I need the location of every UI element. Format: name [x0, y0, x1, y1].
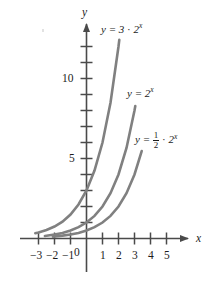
curve-label-lead-3: y =: [135, 133, 150, 145]
curve-label-2-pow-x: y = 2x: [127, 88, 154, 99]
curve-label-lead-1: y = 3: [101, 23, 124, 35]
origin-label: 0: [74, 247, 80, 259]
y-tick-label-10: 10: [62, 73, 74, 85]
curve-3-times-2-pow-x: [35, 40, 119, 233]
y-axis-label: y: [82, 7, 87, 19]
curve-label-half-times-2-pow-x: y = 1 2 · 2x: [135, 131, 177, 151]
curve-label-lead-2: y =: [127, 87, 142, 99]
curve-label-dot-1: ·: [127, 23, 131, 35]
x-tick-label-5: 5: [164, 250, 170, 262]
fraction-denominator: 2: [153, 140, 160, 150]
curve-label-exponent-3: x: [174, 132, 177, 141]
curve-2-pow-x: [45, 106, 135, 236]
curve-label-exponent-2: x: [150, 85, 153, 94]
curve-label-dot-3: ·: [162, 133, 166, 145]
x-tick-label-1: 1: [100, 250, 106, 262]
y-tick-label-5: 5: [69, 153, 75, 165]
x-tick-label-3: 3: [132, 250, 138, 262]
curve-label-3-times-2-pow-x: y = 3 · 2x: [101, 24, 142, 35]
fraction-numerator: 1: [153, 131, 160, 140]
curve-label-exponent-1: x: [139, 21, 142, 30]
graph-canvas: [0, 0, 215, 291]
curve-label-fraction-one-half: 1 2: [153, 131, 160, 151]
x-tick-label-neg2: −2: [46, 250, 58, 262]
x-axis-label: x: [196, 233, 201, 245]
x-tick-label-neg3: −3: [30, 250, 42, 262]
x-tick-label-neg1: −1: [62, 250, 74, 262]
x-tick-label-2: 2: [116, 250, 122, 262]
x-tick-label-4: 4: [148, 250, 154, 262]
exponential-functions-figure: y x 0 −3 −2 −1 1 2 3 4 5 5 10 y = 3 · 2x…: [0, 0, 215, 291]
